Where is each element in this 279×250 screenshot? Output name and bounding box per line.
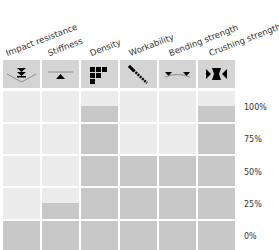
bar-crushing-strength [198,91,235,250]
bar-stiffness [42,91,79,250]
bar-fill [42,203,79,250]
tick-75: 75% [244,135,262,144]
bending-icon [159,60,196,88]
bar-bending-strength [159,91,196,250]
category-label-density: Density [88,37,122,58]
tick-100: 100% [244,103,267,112]
density-icon [81,60,118,88]
category-label-workability: Workability [127,32,175,58]
crushing-icon [198,60,235,88]
bar-fill [3,221,40,250]
stiffness-icon [42,60,79,88]
impact-icon [3,60,40,88]
tick-50: 50% [244,168,262,177]
bar-fill [159,156,196,250]
bar-density [81,91,118,250]
bar-fill [198,106,235,250]
tick-0: 0% [244,232,257,241]
bar-workability [120,91,157,250]
tick-25: 25% [244,200,262,209]
workability-icon [120,60,157,88]
bar-fill [81,106,118,250]
bar-fill [120,156,157,250]
bar-impact-resistance [3,91,40,250]
